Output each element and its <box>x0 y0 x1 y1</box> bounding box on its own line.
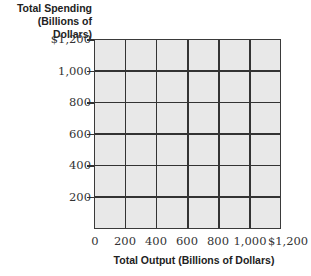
y-tick-label: 600 <box>69 128 91 140</box>
y-tick-label: 1,000 <box>58 65 91 77</box>
x-tick-label: 200 <box>114 235 136 247</box>
x-tick-label: 400 <box>145 235 167 247</box>
grid-hline <box>95 196 280 198</box>
grid-hline <box>95 165 280 167</box>
y-tick-label: $1,200 <box>51 33 91 45</box>
x-tick-label: 0 <box>91 235 98 247</box>
chart-grid <box>94 39 281 229</box>
grid-hline <box>95 133 280 135</box>
y-tick-label: 800 <box>69 96 91 108</box>
x-axis-title: Total Output (Billions of Dollars) <box>94 254 294 266</box>
x-tick-label: 600 <box>176 235 198 247</box>
grid-hline <box>95 102 280 104</box>
y-tick-label: 400 <box>69 159 91 171</box>
x-tick-label: 1,000 <box>234 235 267 247</box>
x-tick-label: $1,200 <box>268 235 308 247</box>
y-tick-label: 200 <box>69 191 91 203</box>
grid-hline <box>95 70 280 72</box>
x-tick-label: 800 <box>207 235 229 247</box>
y-axis-title-line-1: Total Spending <box>0 2 92 15</box>
